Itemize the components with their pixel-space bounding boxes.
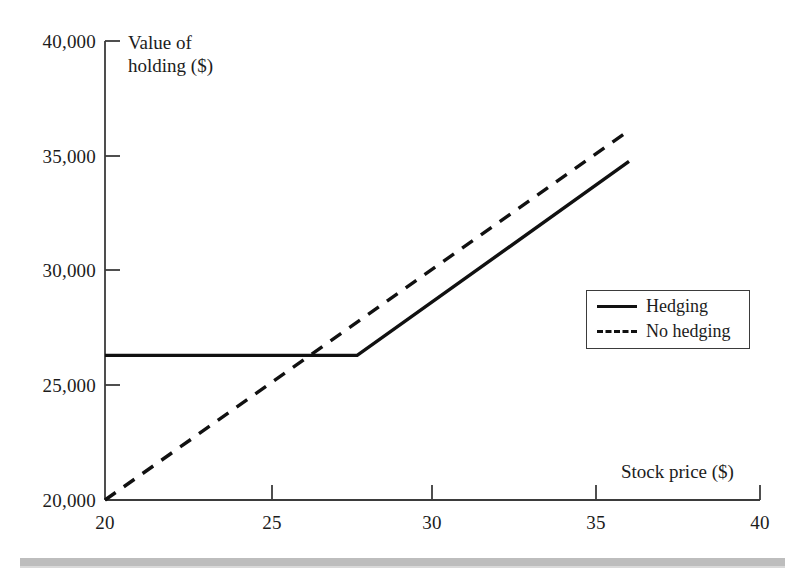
legend-item-hedging: Hedging [597, 293, 708, 319]
page-divider-band [20, 558, 785, 566]
y-tick-label-25000: 25,000 [0, 375, 96, 396]
series-hedging [105, 161, 629, 355]
x-tick-label-30: 30 [402, 512, 462, 533]
legend-label-no-hedging: No hedging [646, 321, 731, 341]
page-divider-band-shadow [20, 566, 785, 568]
x-tick-label-25: 25 [242, 512, 302, 533]
y-tick-label-20000: 20,000 [0, 490, 96, 511]
plot-area [0, 0, 799, 577]
series-no-hedging [105, 131, 629, 501]
legend-solid-line-icon [597, 300, 637, 312]
y-tick-label-40000: 40,000 [0, 31, 96, 52]
y-tick-label-30000: 30,000 [0, 260, 96, 281]
x-axis-title: Stock price ($) [621, 460, 734, 483]
chart-figure: 40,000 35,000 30,000 25,000 20,000 20 25… [0, 0, 799, 577]
legend-dashed-line-icon [597, 325, 637, 337]
y-axis-title-line2: holding ($) [128, 54, 213, 77]
y-axis-ticks [105, 41, 120, 385]
x-tick-label-20: 20 [75, 512, 135, 533]
x-tick-label-35: 35 [566, 512, 626, 533]
chart-legend: Hedging No hedging [586, 290, 750, 349]
y-axis-title-line1: Value of [128, 31, 192, 54]
x-axis-ticks [272, 485, 760, 500]
legend-item-no-hedging: No hedging [597, 318, 731, 344]
x-tick-label-40: 40 [730, 512, 790, 533]
legend-label-hedging: Hedging [646, 296, 708, 316]
y-tick-label-35000: 35,000 [0, 146, 96, 167]
